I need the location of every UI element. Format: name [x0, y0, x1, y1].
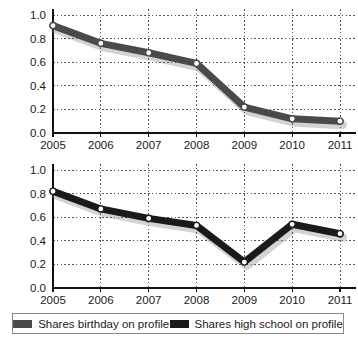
- x-axis-tick-label: 2010: [279, 294, 305, 306]
- y-axis-tick-label: 1.0: [30, 164, 46, 176]
- data-point-marker: [337, 118, 343, 124]
- data-point-marker: [193, 222, 199, 228]
- chart-panel-highschool: 1.00.80.60.40.20.02005200620072008200920…: [0, 152, 358, 307]
- x-axis-tick-label: 2006: [88, 139, 114, 150]
- legend-item-birthday: Shares birthday on profile: [13, 318, 169, 330]
- x-axis-tick-label: 2011: [328, 294, 353, 306]
- y-axis-tick-label: 0.4: [30, 235, 47, 247]
- data-point-marker: [146, 215, 152, 221]
- x-axis-tick-label: 2006: [88, 294, 114, 306]
- y-axis-tick-label: 0.8: [30, 33, 46, 45]
- y-axis-tick-label: 0.0: [30, 282, 46, 294]
- legend-label-birthday: Shares birthday on profile: [38, 318, 169, 330]
- line-chart-birthday: 1.00.80.60.40.20.02005200620072008200920…: [0, 0, 358, 150]
- chart-figure: 1.00.80.60.40.20.02005200620072008200920…: [0, 0, 358, 342]
- legend-label-highschool: Shares high school on profile: [195, 318, 343, 330]
- line-chart-highschool: 1.00.80.60.40.20.02005200620072008200920…: [0, 152, 358, 307]
- data-point-marker: [98, 206, 104, 212]
- x-axis-tick-label: 2005: [40, 294, 66, 306]
- data-point-marker: [337, 231, 343, 237]
- x-axis-tick-label: 2011: [328, 139, 353, 150]
- x-axis-tick-label: 2007: [136, 294, 162, 306]
- x-axis-tick-label: 2008: [184, 294, 210, 306]
- data-point-marker: [98, 40, 104, 46]
- x-axis-tick-label: 2010: [279, 139, 305, 150]
- x-axis-tick-label: 2009: [232, 294, 258, 306]
- legend-swatch-birthday: [13, 320, 32, 328]
- y-axis-tick-label: 0.2: [30, 258, 46, 270]
- x-axis-tick-label: 2008: [184, 139, 210, 150]
- chart-panel-birthday: 1.00.80.60.40.20.02005200620072008200920…: [0, 0, 358, 150]
- data-point-marker: [289, 221, 295, 227]
- x-axis-tick-label: 2009: [232, 139, 258, 150]
- y-axis-tick-label: 1.0: [30, 9, 46, 21]
- legend-swatch-highschool: [170, 320, 189, 328]
- data-point-marker: [50, 188, 56, 194]
- y-axis-tick-label: 0.2: [30, 103, 46, 115]
- y-axis-tick-label: 0.6: [30, 56, 46, 68]
- data-point-marker: [289, 116, 295, 122]
- data-point-marker: [50, 23, 56, 29]
- data-point-marker: [146, 50, 152, 56]
- chart-legend: Shares birthday on profile Shares high s…: [12, 313, 344, 334]
- data-point-marker: [193, 60, 199, 66]
- legend-item-highschool: Shares high school on profile: [170, 318, 343, 330]
- y-axis-tick-label: 0.8: [30, 188, 46, 200]
- data-point-marker: [241, 259, 247, 265]
- y-axis-tick-label: 0.4: [30, 80, 47, 92]
- data-point-marker: [241, 104, 247, 110]
- y-axis-tick-label: 0.6: [30, 211, 46, 223]
- y-axis-tick-label: 0.0: [30, 127, 46, 139]
- x-axis-tick-label: 2005: [40, 139, 66, 150]
- x-axis-tick-label: 2007: [136, 139, 162, 150]
